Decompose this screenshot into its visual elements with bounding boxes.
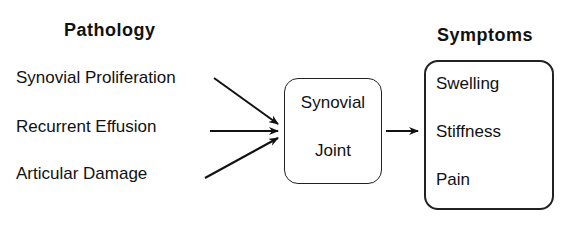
symptoms-box: Swelling Stiffness Pain xyxy=(424,60,554,210)
arrow-proliferation xyxy=(214,78,278,124)
symptom-item: Stiffness xyxy=(436,122,501,142)
joint-line-1: Synovial xyxy=(285,93,381,113)
arrow-damage xyxy=(205,138,278,178)
synovial-joint-box: Synovial Joint xyxy=(284,78,382,184)
symptom-item: Swelling xyxy=(436,74,499,94)
symptom-item: Pain xyxy=(436,170,470,190)
joint-line-2: Joint xyxy=(285,141,381,161)
symptoms-heading: Symptoms xyxy=(437,25,533,46)
